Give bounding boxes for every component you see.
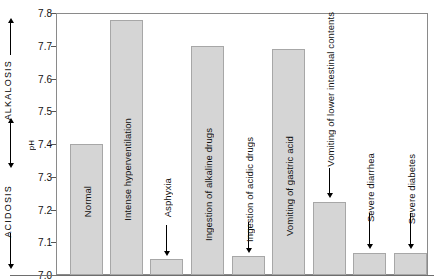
ph-arrow-line bbox=[10, 123, 11, 163]
ytick-label: 7.2 bbox=[28, 204, 52, 215]
bar-label-asphyxia: Asphyxia bbox=[162, 178, 173, 217]
ytick-label: 7.7 bbox=[28, 40, 52, 51]
bar-ingestion-acidic-drugs bbox=[232, 256, 265, 275]
ph-arrow-head-down bbox=[8, 163, 14, 168]
alkalosis-label: ALKALOSIS bbox=[3, 60, 13, 120]
bar-label-severe-diarrhea: Severe diarrhea bbox=[365, 153, 376, 222]
ph-bar-chart: ALKALOSIS ACIDOSIS pH 7.8 7.7 7.6 7.5 7.… bbox=[0, 0, 440, 279]
ytick-label: 7.1 bbox=[28, 237, 52, 248]
y-axis-tick-labels: 7.8 7.7 7.6 7.5 7.4 7.3 7.2 7.1 7.0 bbox=[22, 0, 52, 279]
bar-severe-diabetes bbox=[394, 253, 427, 276]
bar-label-intense-hyperventilation: Intense hyperventilation bbox=[122, 118, 133, 221]
ytick-label: 7.6 bbox=[28, 73, 52, 84]
bar-leader-asphyxia bbox=[166, 225, 167, 252]
bar-leader-arrow-asphyxia bbox=[164, 251, 170, 256]
acidosis-arrow-head bbox=[8, 264, 14, 269]
acidosis-arrow-line bbox=[10, 233, 11, 265]
bar-label-vomiting-gastric-acid: Vomiting of gastric acid bbox=[284, 136, 295, 236]
bar-label-normal: Normal bbox=[82, 186, 93, 217]
acidosis-label: ACIDOSIS bbox=[3, 185, 13, 238]
bar-leader-arrow-severe-diabetes bbox=[408, 244, 414, 249]
bar-leader-arrow-severe-diarrhea bbox=[367, 244, 373, 249]
ytick-label: 7.8 bbox=[28, 8, 52, 19]
chart-baseline bbox=[10, 275, 434, 276]
ytick-label: 7.4 bbox=[28, 139, 52, 150]
bar-leader-vomiting-lower-intestinal-contents bbox=[329, 168, 330, 194]
bar-severe-diarrhea bbox=[353, 253, 386, 276]
bar-label-vomiting-lower-intestinal-contents: Vomiting of lower intestinal contents bbox=[325, 12, 336, 167]
axis-direction-column: ALKALOSIS ACIDOSIS bbox=[0, 0, 22, 279]
bar-label-ingestion-acidic-drugs: Ingestion of acidic drugs bbox=[244, 137, 255, 242]
alkalosis-arrow-line bbox=[10, 23, 11, 55]
ytick-label: 7.5 bbox=[28, 106, 52, 117]
bar-asphyxia bbox=[150, 259, 183, 275]
bar-label-severe-diabetes: Severe diabetes bbox=[406, 154, 417, 224]
bar-leader-arrow-ingestion-acidic-drugs bbox=[246, 248, 252, 253]
bar-label-ingestion-alkaline-drugs: Ingestion of alkaline drugs bbox=[203, 128, 214, 241]
bar-leader-arrow-vomiting-lower-intestinal-contents bbox=[327, 193, 333, 198]
bar-vomiting-lower-intestinal-contents bbox=[313, 202, 346, 275]
ytick-label: 7.3 bbox=[28, 171, 52, 182]
